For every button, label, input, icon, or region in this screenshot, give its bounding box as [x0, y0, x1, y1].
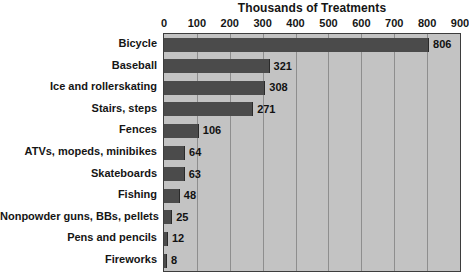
category-label: Nonpowder guns, BBs, pellets	[0, 206, 157, 228]
category-label: Skateboards	[0, 163, 157, 185]
x-tick-label: 100	[188, 17, 206, 29]
x-tick-label: 400	[286, 17, 304, 29]
category-label: Pens and pencils	[0, 227, 157, 249]
category-label: Bicycle	[0, 33, 157, 55]
bar-value-label: 63	[189, 167, 201, 181]
bar	[164, 81, 265, 95]
bar-row: 63	[164, 164, 460, 186]
x-tick-label: 200	[221, 17, 239, 29]
category-label: Fences	[0, 119, 157, 141]
bar-row: 308	[164, 77, 460, 99]
bar-value-label: 8	[171, 253, 177, 267]
bar-value-label: 25	[176, 210, 188, 224]
bar-value-label: 271	[257, 102, 275, 116]
bar-rows: 80632130827110664634825128	[164, 34, 460, 271]
bar-value-label: 12	[172, 231, 184, 245]
x-tick-label: 500	[319, 17, 337, 29]
bar-row: 64	[164, 142, 460, 164]
category-label: Fishing	[0, 184, 157, 206]
bar	[164, 167, 185, 181]
bar-row: 106	[164, 120, 460, 142]
bar-row: 271	[164, 99, 460, 121]
bar	[164, 59, 270, 73]
bar-row: 25	[164, 207, 460, 229]
x-axis-tick-labels: 0100200300400500600700800900	[163, 17, 461, 31]
x-tick-label: 900	[451, 17, 469, 29]
bar-row: 48	[164, 185, 460, 207]
bar	[164, 210, 172, 224]
bar	[164, 38, 429, 52]
bar-value-label: 321	[274, 59, 292, 73]
category-label: Ice and rollerskating	[0, 76, 157, 98]
bar	[164, 189, 180, 203]
bar	[164, 102, 253, 116]
category-label: ATVs, mopeds, minibikes	[0, 141, 157, 163]
bar	[164, 232, 168, 246]
chart-title: Thousands of Treatments	[163, 1, 461, 15]
bar-row: 806	[164, 34, 460, 56]
category-label: Fireworks	[0, 249, 157, 271]
bar	[164, 254, 167, 268]
bar-value-label: 64	[189, 145, 201, 159]
bar-row: 12	[164, 228, 460, 250]
category-axis-labels: BicycleBaseballIce and rollerskatingStai…	[0, 33, 157, 272]
category-label: Stairs, steps	[0, 98, 157, 120]
x-tick-label: 700	[385, 17, 403, 29]
bar-value-label: 48	[184, 188, 196, 202]
x-tick-label: 600	[352, 17, 370, 29]
bar	[164, 146, 185, 160]
x-tick-label: 0	[161, 17, 167, 29]
bar	[164, 124, 199, 138]
bar-value-label: 106	[203, 123, 221, 137]
bar-row: 8	[164, 250, 460, 272]
x-tick-label: 300	[253, 17, 271, 29]
x-tick-label: 800	[418, 17, 436, 29]
bar-value-label: 806	[433, 37, 451, 51]
plot-area: 80632130827110664634825128	[163, 33, 461, 272]
bar-row: 321	[164, 56, 460, 78]
category-label: Baseball	[0, 55, 157, 77]
bar-value-label: 308	[269, 80, 287, 94]
